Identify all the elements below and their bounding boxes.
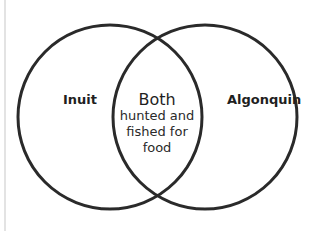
- overlap-line-3: food: [112, 140, 202, 156]
- overlap-title: Both: [112, 92, 202, 108]
- inuit-label: Inuit: [56, 92, 104, 107]
- overlap-line-1: hunted and: [112, 108, 202, 124]
- overlap-line-2: fished for: [112, 124, 202, 140]
- overlap-region-text: Both hunted and fished for food: [112, 92, 202, 156]
- algonquin-label: Algonquin: [227, 92, 297, 107]
